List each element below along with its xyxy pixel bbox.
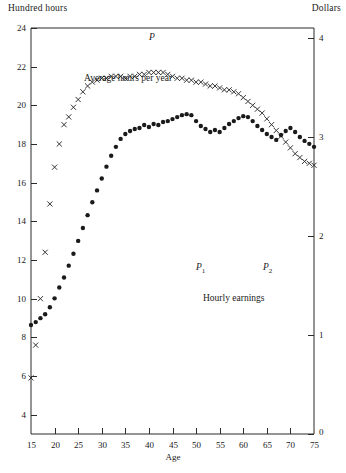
- hours-data-point: [48, 202, 53, 207]
- origin-zero-label: 0: [319, 427, 324, 437]
- hours-data-point: [265, 117, 270, 122]
- hours-data-point: [33, 343, 38, 348]
- hours-data-point: [250, 103, 255, 108]
- earnings-data-point: [189, 113, 193, 117]
- earnings-data-point: [236, 116, 240, 120]
- hours-data-point: [43, 250, 48, 255]
- earnings-data-point: [222, 126, 226, 130]
- earnings-data-point: [241, 114, 245, 118]
- hours-data-point: [293, 151, 298, 156]
- earnings-data-point: [100, 176, 104, 180]
- x-axis-title: Age: [0, 452, 346, 462]
- y2-tick-label-2: 2: [319, 231, 324, 241]
- hours-data-point: [52, 165, 57, 170]
- plot-canvas: [0, 0, 346, 473]
- y-tick-label-20: 20: [6, 100, 26, 110]
- x-tick-label-50: 50: [185, 440, 209, 450]
- earnings-data-point: [232, 119, 236, 123]
- hours-data-point: [307, 161, 312, 166]
- hours-data-point: [217, 86, 222, 91]
- y-tick-label-12: 12: [6, 255, 26, 265]
- hours-data-point: [189, 78, 194, 83]
- earnings-data-point: [260, 128, 264, 132]
- x-tick-label-60: 60: [232, 440, 256, 450]
- earnings-data-point: [284, 129, 288, 133]
- hours-data-point: [184, 78, 189, 83]
- earnings-series-label: Hourly earnings: [203, 293, 264, 303]
- y-tick-label-8: 8: [6, 332, 26, 342]
- earnings-data-point: [114, 145, 118, 149]
- earnings-data-point: [85, 213, 89, 217]
- earnings-data-point: [71, 252, 75, 256]
- hours-data-point: [274, 128, 279, 133]
- hours-data-point: [85, 84, 90, 89]
- earnings-data-point: [255, 124, 259, 128]
- x-tick-label-30: 30: [91, 440, 115, 450]
- earnings-data-point: [288, 126, 292, 130]
- hours-data-point: [208, 84, 213, 89]
- y2-tick-label-3: 3: [319, 132, 324, 142]
- x-tick-label-55: 55: [209, 440, 233, 450]
- peak-label-p2: P2: [263, 262, 272, 275]
- hours-data-point: [255, 107, 260, 112]
- earnings-data-point: [312, 145, 316, 149]
- hours-data-point: [260, 111, 265, 116]
- hours-data-point: [66, 115, 71, 120]
- earnings-data-point: [137, 126, 141, 130]
- earnings-data-point: [208, 130, 212, 134]
- x-tick-label-40: 40: [138, 440, 162, 450]
- earnings-data-point: [161, 120, 165, 124]
- hours-data-point: [81, 90, 86, 95]
- earnings-data-point: [279, 133, 283, 137]
- y-tick-label-16: 16: [6, 178, 26, 188]
- earnings-data-point: [250, 119, 254, 123]
- earnings-data-point: [123, 132, 127, 136]
- earnings-data-point: [147, 125, 151, 129]
- earnings-data-point: [274, 138, 278, 142]
- hours-data-point: [213, 84, 218, 89]
- x-tick-label-45: 45: [162, 440, 186, 450]
- y2-tick-label-4: 4: [319, 33, 324, 43]
- x-tick-label-65: 65: [256, 440, 280, 450]
- hours-data-point: [269, 122, 274, 127]
- earnings-data-point: [48, 305, 52, 309]
- earnings-data-point: [104, 164, 108, 168]
- peak-label-p1-sub: 1: [202, 267, 206, 275]
- earnings-data-point: [151, 122, 155, 126]
- earnings-data-point: [227, 122, 231, 126]
- earnings-data-point: [29, 323, 33, 327]
- y-tick-label-14: 14: [6, 216, 26, 226]
- y-tick-label-18: 18: [6, 139, 26, 149]
- earnings-data-point: [213, 128, 217, 132]
- earnings-data-point: [67, 263, 71, 267]
- hours-data-point: [71, 105, 76, 110]
- earnings-data-point: [76, 239, 80, 243]
- peak-label-p: P: [149, 32, 155, 42]
- earnings-data-point: [52, 296, 56, 300]
- earnings-data-point: [133, 127, 137, 131]
- earnings-data-point: [43, 312, 47, 316]
- earnings-data-point: [246, 115, 250, 119]
- peak-label-p2-sub: 2: [269, 267, 273, 275]
- hours-data-point: [199, 80, 204, 85]
- earnings-data-point: [118, 137, 122, 141]
- hours-data-point: [241, 95, 246, 100]
- peak-label-p1: P1: [196, 262, 205, 275]
- y-tick-label-6: 6: [6, 371, 26, 381]
- x-tick-label-75: 75: [303, 440, 327, 450]
- earnings-data-point: [194, 119, 198, 123]
- x-tick-label-15: 15: [20, 440, 44, 450]
- earnings-data-point: [293, 130, 297, 134]
- earnings-data-point: [307, 142, 311, 146]
- chart-figure: Hundred hours Dollars Average hours per …: [0, 0, 346, 473]
- hours-data-point: [246, 99, 251, 104]
- earnings-data-point: [62, 275, 66, 279]
- hours-data-point: [76, 97, 81, 102]
- hours-data-point: [298, 155, 303, 160]
- hours-data-point: [232, 90, 237, 95]
- earnings-data-point: [180, 113, 184, 117]
- peak-label-p-text: P: [149, 32, 155, 42]
- hours-data-point: [194, 80, 199, 85]
- hours-data-point: [62, 122, 67, 127]
- hours-data-point: [175, 76, 180, 81]
